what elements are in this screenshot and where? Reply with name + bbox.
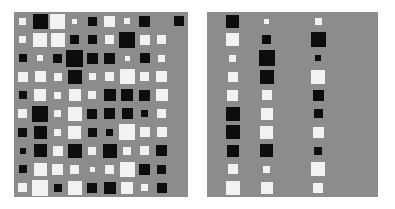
- weight-cell-positive: [88, 147, 96, 155]
- weight-cell-negative: [19, 165, 27, 173]
- weight-cell-negative: [226, 125, 240, 139]
- weight-cell-negative: [140, 53, 150, 63]
- weight-cell-positive: [32, 180, 48, 196]
- weight-cell-positive: [34, 89, 46, 101]
- weight-cell-positive: [51, 33, 65, 47]
- weight-cell-positive: [315, 18, 322, 25]
- weight-cell-positive: [262, 90, 272, 100]
- weight-cell-positive: [70, 165, 79, 174]
- weight-cell-positive: [88, 91, 96, 99]
- weight-cell-positive: [226, 181, 240, 195]
- weight-cell-positive: [119, 124, 135, 140]
- weight-cell-positive: [140, 146, 149, 155]
- weight-cell-positive: [53, 146, 63, 156]
- weight-cell-positive: [37, 55, 43, 61]
- weight-cell-negative: [227, 145, 239, 157]
- weight-cell-positive: [140, 127, 150, 137]
- weight-cell-positive: [157, 35, 166, 44]
- weight-cell-positive: [105, 72, 114, 81]
- weight-cell-negative: [87, 183, 97, 193]
- weight-cell-positive: [105, 165, 114, 174]
- weight-cell-positive: [264, 19, 269, 24]
- weight-cell-positive: [90, 167, 95, 172]
- weight-cell-negative: [54, 184, 62, 192]
- weight-cell-negative: [104, 89, 116, 101]
- weight-cell-positive: [54, 110, 61, 117]
- weight-cell-negative: [33, 14, 48, 29]
- weight-cell-positive: [123, 147, 131, 155]
- weight-cell-positive: [72, 19, 77, 24]
- weight-cell-positive: [68, 181, 82, 195]
- weight-cell-positive: [229, 55, 236, 62]
- weight-cell-negative: [19, 91, 27, 99]
- weight-cell-negative: [139, 164, 150, 175]
- weight-cell-negative: [119, 32, 135, 48]
- weight-cell-positive: [54, 73, 62, 81]
- weight-cell-positive: [19, 36, 26, 43]
- weight-cell-positive: [125, 56, 130, 61]
- weight-cell-negative: [259, 50, 275, 66]
- weight-cell-negative: [311, 32, 326, 47]
- weight-cell-negative: [18, 128, 27, 137]
- weight-cell-negative: [68, 144, 82, 158]
- weight-cell-positive: [68, 126, 81, 139]
- weight-cell-positive: [89, 73, 96, 80]
- weight-cell-positive: [18, 109, 27, 118]
- weight-cell-negative: [104, 108, 115, 119]
- weight-cell-negative: [157, 165, 166, 174]
- weight-cell-positive: [158, 55, 165, 62]
- weight-cell-negative: [174, 16, 184, 26]
- weight-cell-negative: [226, 107, 240, 121]
- weight-cell-positive: [156, 71, 167, 82]
- weight-cell-positive: [120, 69, 135, 84]
- weight-cell-negative: [139, 90, 150, 101]
- weight-cell-positive: [261, 182, 273, 194]
- weight-cell-positive: [261, 108, 273, 120]
- weight-cell-positive: [54, 92, 61, 99]
- weight-cell-negative: [314, 147, 322, 155]
- weight-cell-positive: [104, 16, 115, 27]
- weight-cell-negative: [32, 106, 48, 122]
- weight-cell-positive: [34, 163, 47, 176]
- weight-cell-negative: [103, 144, 117, 158]
- weight-cell-positive: [260, 126, 273, 139]
- weight-cell-positive: [228, 164, 238, 174]
- weight-cell-positive: [105, 35, 114, 44]
- weight-cell-positive: [311, 162, 325, 176]
- weight-cell-negative: [315, 55, 321, 61]
- weight-cell-positive: [313, 127, 324, 138]
- weight-cell-negative: [141, 110, 148, 117]
- weight-cell-negative: [314, 109, 323, 118]
- weight-cell-positive: [157, 127, 167, 137]
- weight-cell-positive: [226, 33, 239, 46]
- left-panel: [14, 12, 188, 197]
- weight-cell-positive: [19, 18, 26, 25]
- weight-cell-positive: [18, 183, 27, 192]
- weight-cell-positive: [52, 164, 63, 175]
- weight-cell-positive: [156, 89, 168, 101]
- weight-cell-positive: [227, 90, 238, 101]
- weight-cell-negative: [88, 17, 97, 26]
- weight-cell-positive: [311, 70, 325, 84]
- weight-cell-negative: [104, 182, 116, 194]
- weight-cell-positive: [54, 129, 61, 136]
- weight-cell-positive: [50, 14, 65, 29]
- weight-cell-negative: [122, 108, 133, 119]
- weight-cell-negative: [157, 183, 167, 193]
- weight-cell-negative: [34, 144, 47, 157]
- weight-cell-positive: [120, 162, 135, 177]
- weight-cell-negative: [20, 148, 26, 154]
- weight-cell-negative: [262, 35, 271, 44]
- weight-cell-positive: [69, 89, 81, 101]
- weight-cell-negative: [87, 53, 98, 64]
- weight-cell-negative: [121, 89, 133, 101]
- weight-cell-positive: [121, 182, 133, 194]
- weight-cell-negative: [70, 35, 79, 44]
- weight-cell-positive: [228, 72, 238, 82]
- right-panel: [207, 12, 378, 197]
- weight-cell-negative: [260, 70, 274, 84]
- weight-cell-negative: [313, 90, 324, 101]
- weight-cell-negative: [260, 144, 273, 157]
- weight-cell-negative: [106, 129, 113, 136]
- weight-cell-positive: [140, 35, 150, 45]
